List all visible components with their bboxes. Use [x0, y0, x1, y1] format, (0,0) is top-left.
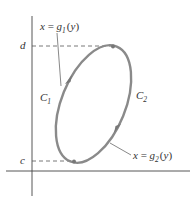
label-d: d [20, 39, 26, 51]
bottom-point [72, 160, 76, 164]
arrow-c2-icon [114, 124, 121, 133]
label-c: c [20, 154, 25, 166]
leader-line-g2 [110, 143, 131, 155]
leader-line-g1 [57, 33, 61, 86]
label-g2: x = g2(y) [132, 149, 172, 164]
top-point [111, 45, 115, 49]
label-c1: C1 [40, 91, 51, 106]
label-g1: x = g1(y) [39, 20, 79, 35]
closed-curve [41, 35, 147, 174]
region-diagram: d c C1 C2 x = g1(y) x = g2(y) [0, 0, 194, 202]
label-c2: C2 [136, 89, 147, 104]
